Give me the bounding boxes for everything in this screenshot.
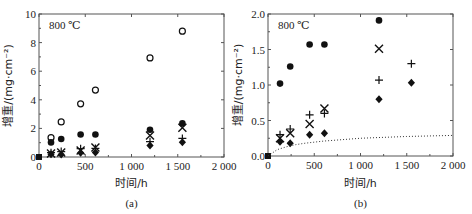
data-point <box>58 136 65 143</box>
data-point <box>306 131 313 139</box>
data-point <box>179 138 186 146</box>
x-tick-label: 2 000 <box>441 159 466 171</box>
data-point <box>286 125 294 133</box>
data-point <box>78 101 84 107</box>
x-tick-label: 500 <box>306 159 323 171</box>
data-point <box>306 111 314 119</box>
data-point <box>77 131 84 138</box>
chart-panel-b: 05001 0001 5002 0000.00.51.01.52.0800 ℃时… <box>231 8 466 210</box>
x-tick-label: 1 000 <box>119 160 144 172</box>
plot-frame <box>39 14 224 157</box>
data-point <box>146 142 153 150</box>
temperature-annotation: 800 ℃ <box>49 19 81 31</box>
data-point <box>376 17 383 24</box>
data-point <box>48 139 55 146</box>
x-tick-label: 1 500 <box>165 160 190 172</box>
y-tick-label: 6 <box>31 65 37 77</box>
figure: 05001 0001 5002 0000246810800 ℃时间/h(a)增重… <box>0 0 472 214</box>
data-point <box>77 149 84 157</box>
y-tick-label: 1.5 <box>251 44 265 56</box>
data-point <box>287 63 294 70</box>
y-axis-label: 增重/(mg·cm⁻²) <box>1 44 15 126</box>
x-axis-label: 时间/h <box>115 177 148 190</box>
data-point <box>276 138 283 146</box>
data-point <box>179 28 185 34</box>
y-axis-label: 增重/(mg·cm⁻²) <box>231 44 245 126</box>
data-point <box>321 129 328 137</box>
data-point <box>92 131 99 138</box>
chart-panel-a: 05001 0001 5002 0000246810800 ℃时间/h(a)增重… <box>1 8 237 210</box>
data-point <box>321 41 328 48</box>
data-point <box>408 79 415 87</box>
data-point <box>375 95 382 103</box>
data-point <box>407 60 415 68</box>
y-tick-label: 0.0 <box>251 150 265 162</box>
series-dotted-curve <box>268 135 453 156</box>
panel-label: (a) <box>125 197 138 210</box>
data-point <box>306 120 314 128</box>
y-tick-label: 2.0 <box>251 8 265 20</box>
x-tick-label: 0 <box>265 159 271 171</box>
y-tick-label: 2 <box>31 122 37 134</box>
y-tick-label: 10 <box>25 8 37 20</box>
x-tick-label: 2 000 <box>212 160 237 172</box>
x-tick-label: 500 <box>77 160 94 172</box>
data-point <box>147 126 154 133</box>
y-tick-label: 0 <box>31 151 37 163</box>
data-point <box>92 87 98 93</box>
y-tick-label: 1.0 <box>251 79 265 91</box>
data-point <box>147 55 153 61</box>
data-point <box>306 41 313 48</box>
data-point <box>375 76 383 84</box>
y-tick-label: 0.5 <box>251 115 265 127</box>
origin-marker <box>36 154 42 160</box>
x-axis-label: 时间/h <box>344 177 377 190</box>
dotted-curve <box>268 135 453 156</box>
data-point <box>58 119 64 125</box>
x-tick-label: 1 500 <box>394 159 419 171</box>
panel-label: (b) <box>354 197 367 210</box>
x-tick-label: 1 000 <box>348 159 373 171</box>
x-tick-label: 0 <box>36 160 42 172</box>
data-point <box>375 45 383 53</box>
y-tick-label: 8 <box>31 37 37 49</box>
temperature-annotation: 800 ℃ <box>278 19 310 31</box>
plot-frame <box>268 14 453 156</box>
data-point <box>276 131 284 139</box>
data-point <box>277 80 284 87</box>
y-tick-label: 4 <box>31 94 37 106</box>
